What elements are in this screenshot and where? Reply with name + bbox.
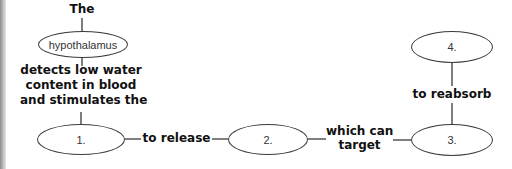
- label-the: The: [62, 2, 102, 17]
- link-which-can-target: which can target: [326, 124, 393, 152]
- link-which-can: which can: [326, 124, 393, 138]
- link-detects: detects low water content in blood and s…: [20, 63, 142, 108]
- node-hypothalamus: hypothalamus: [38, 31, 128, 58]
- link-detects-line2: content in blood: [20, 78, 142, 93]
- node-hypothalamus-label: hypothalamus: [49, 39, 118, 51]
- node-2-label: 2.: [263, 134, 272, 146]
- node-3-blank[interactable]: 3.: [411, 124, 493, 156]
- node-1-label: 1.: [76, 134, 85, 146]
- node-4-blank[interactable]: 4.: [411, 31, 493, 63]
- node-1-blank[interactable]: 1.: [37, 124, 125, 155]
- link-to-release: to release: [141, 131, 212, 146]
- node-2-blank[interactable]: 2.: [228, 124, 308, 155]
- link-to-reabsorb: to reabsorb: [412, 87, 492, 102]
- link-target: target: [326, 138, 393, 152]
- link-detects-line1: detects low water: [20, 63, 142, 78]
- node-4-label: 4.: [447, 41, 456, 53]
- link-detects-line3: and stimulates the: [20, 93, 142, 108]
- node-3-label: 3.: [447, 134, 456, 146]
